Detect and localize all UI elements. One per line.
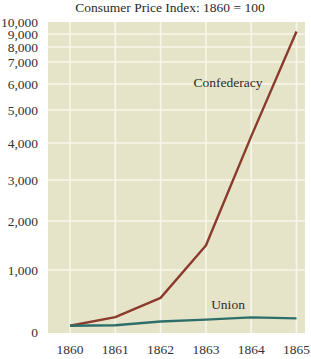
y-tick-label: 6,000 [8,77,39,92]
y-tick-label: 1,000 [8,263,39,278]
x-tick-label: 1861 [102,342,129,357]
y-tick-label: 0 [31,325,38,340]
y-tick-label: 3,000 [8,173,39,188]
y-tick-label: 5,000 [8,103,39,118]
y-tick-label: 10,000 [1,15,38,30]
y-axis-tick-labels: 01,0002,0003,0004,0005,0006,0007,0008,00… [1,15,38,340]
x-tick-label: 1862 [147,342,174,357]
series-label-union: Union [211,297,245,312]
x-tick-label: 1860 [57,342,84,357]
cpi-line-chart: Consumer Price Index: 1860 = 100 01,0002… [0,0,311,359]
y-tick-label: 4,000 [8,136,39,151]
x-tick-label: 1864 [238,342,265,357]
chart-title: Consumer Price Index: 1860 = 100 [75,0,265,15]
y-tick-label: 8,000 [8,40,39,55]
x-tick-label: 1863 [192,342,219,357]
y-tick-label: 2,000 [8,214,39,229]
x-axis-tick-labels: 186018611862186318641865 [57,342,311,357]
y-tick-label: 7,000 [8,55,39,70]
x-tick-label: 1865 [283,342,310,357]
series-label-confederacy: Confederacy [194,75,263,90]
plot-area [48,22,305,333]
